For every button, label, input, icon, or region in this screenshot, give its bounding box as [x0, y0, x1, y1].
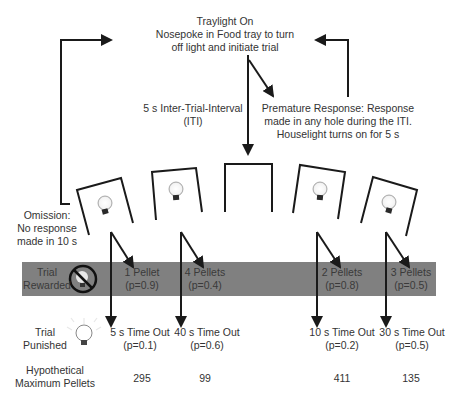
iti-line-1: 5 s Inter-Trial-Interval — [138, 102, 248, 115]
lightbulb-icon — [313, 182, 327, 200]
p4-punish-timeout: 30 s Time Out — [375, 326, 449, 339]
p2-punish: 40 s Time Out (p=0.6) — [170, 326, 244, 352]
p2-max: 99 — [175, 372, 235, 385]
p3-reward-prob: (p=0.8) — [312, 279, 372, 292]
p1-punish: 5 s Time Out (p=0.1) — [105, 326, 175, 352]
start-line-3: off light and initiate trial — [150, 41, 300, 54]
p3-reward-arrow — [317, 232, 340, 267]
punished-line-1: Trial — [20, 326, 70, 339]
p4-reward: 3 Pellets (p=0.5) — [381, 266, 441, 292]
p3-max: 411 — [312, 372, 372, 385]
p2-punish-prob: (p=0.6) — [170, 339, 244, 352]
start-line-1: Traylight On — [150, 15, 300, 28]
p4-reward-arrow — [386, 232, 409, 267]
p2-reward-arrow — [181, 232, 203, 267]
iti-text: 5 s Inter-Trial-Interval (ITI) — [138, 102, 248, 128]
p3-punish-timeout: 10 s Time Out — [305, 326, 379, 339]
start-to-premature-arrow — [249, 60, 273, 96]
premature-text: Premature Response: Response made in any… — [258, 102, 418, 141]
omission-text: Omission: No response made in 10 s — [12, 209, 82, 248]
premature-line-3: Houselight turns on for 5 s — [258, 128, 418, 141]
lightbulb-icon — [382, 195, 396, 214]
p4-punish: 30 s Time Out (p=0.5) — [375, 326, 449, 352]
p2-punish-timeout: 40 s Time Out — [170, 326, 244, 339]
max-line-1: Hypothetical — [10, 364, 100, 377]
iti-line-2: (ITI) — [138, 115, 248, 128]
p4-reward-amount: 3 Pellets — [381, 266, 441, 279]
p1-reward-prob: (p=0.9) — [112, 279, 172, 292]
p3-reward: 2 Pellets (p=0.8) — [312, 266, 372, 292]
p4-reward-prob: (p=0.5) — [381, 279, 441, 292]
start-line-2: Nosepoke in Food tray to turn — [150, 28, 300, 41]
food-tray-outline — [225, 164, 272, 212]
p1-punish-timeout: 5 s Time Out — [105, 326, 175, 339]
p2-reward-amount: 4 Pellets — [175, 266, 235, 279]
p4-punish-prob: (p=0.5) — [375, 339, 449, 352]
p3-reward-amount: 2 Pellets — [312, 266, 372, 279]
p1-max: 295 — [112, 372, 172, 385]
p1-reward-arrow — [111, 232, 133, 267]
p4-max: 135 — [381, 372, 441, 385]
max-pellets-label: Hypothetical Maximum Pellets — [10, 364, 100, 390]
omission-line-1: Omission: — [12, 209, 82, 222]
p2-reward: 4 Pellets (p=0.4) — [175, 266, 235, 292]
premature-line-1: Premature Response: Response — [258, 102, 418, 115]
p2-reward-prob: (p=0.4) — [175, 279, 235, 292]
no-light-icon — [70, 266, 96, 292]
lightbulb-icon — [98, 196, 112, 215]
omission-line-2: No response — [12, 222, 82, 235]
p3-punish: 10 s Time Out (p=0.2) — [305, 326, 379, 352]
rewarded-label: Trial Rewarded — [22, 266, 72, 292]
premature-loop-line — [316, 40, 348, 97]
omission-line-3: made in 10 s — [12, 235, 82, 248]
start-step-text: Traylight On Nosepoke in Food tray to tu… — [150, 15, 300, 54]
punished-label: Trial Punished — [20, 326, 70, 352]
rgt-task-diagram: Traylight On Nosepoke in Food tray to tu… — [0, 0, 454, 404]
p1-reward: 1 Pellet (p=0.9) — [112, 266, 172, 292]
premature-line-2: made in any hole during the ITI. — [258, 115, 418, 128]
p1-punish-prob: (p=0.1) — [105, 339, 175, 352]
punished-line-2: Punished — [20, 339, 70, 352]
lightbulb-on-icon — [67, 318, 101, 345]
p1-reward-amount: 1 Pellet — [112, 266, 172, 279]
rewarded-line-2: Rewarded — [22, 279, 72, 292]
max-line-2: Maximum Pellets — [10, 377, 100, 390]
omission-loop-line — [61, 40, 111, 204]
lightbulb-icon — [169, 182, 183, 200]
p3-punish-prob: (p=0.2) — [305, 339, 379, 352]
rewarded-line-1: Trial — [22, 266, 72, 279]
